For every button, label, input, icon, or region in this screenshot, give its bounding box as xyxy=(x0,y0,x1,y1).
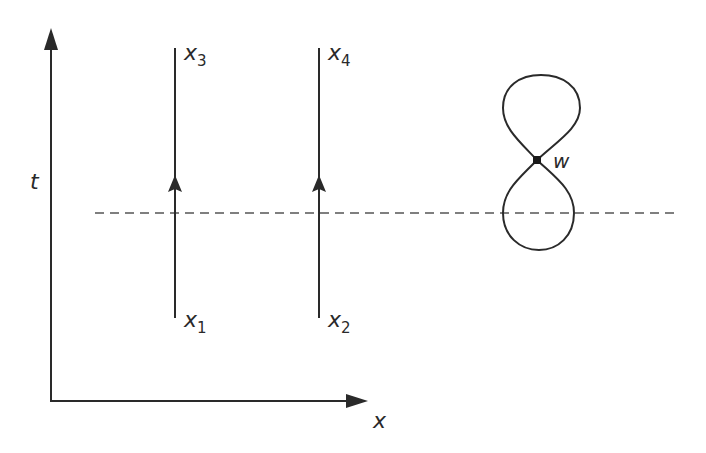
t-axis-arrowhead-icon xyxy=(44,28,58,50)
worldline-right: x4 x2 xyxy=(312,40,351,337)
label-x4: x4 xyxy=(327,40,351,70)
label-x2: x2 xyxy=(327,307,351,337)
x-axis: x xyxy=(50,394,387,433)
vertex-label-w: w xyxy=(553,149,570,173)
worldline-left: x3 x1 xyxy=(168,40,207,337)
lower-loop xyxy=(503,160,574,250)
x-axis-arrowhead-icon xyxy=(346,394,368,408)
label-x1: x1 xyxy=(183,307,207,337)
t-axis: t xyxy=(30,28,58,401)
label-x3: x3 xyxy=(183,40,207,70)
upper-loop xyxy=(503,75,580,160)
vertex-dot-icon xyxy=(533,156,541,164)
t-axis-label: t xyxy=(30,169,40,194)
figure-eight-loop: w xyxy=(503,75,580,250)
feynman-diagram: t x x3 x1 x4 x2 w xyxy=(0,0,706,453)
x-axis-label: x xyxy=(372,408,387,433)
